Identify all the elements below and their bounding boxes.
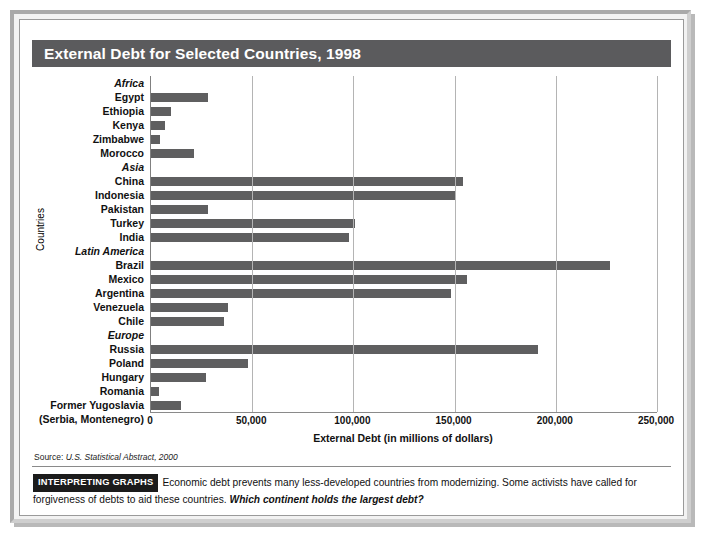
group-label-latin-america: Latin America — [22, 244, 150, 258]
x-tick-label: 100,000 — [334, 415, 370, 426]
source-prefix: Source: — [34, 452, 66, 462]
bar-row — [151, 314, 657, 328]
country-label: Egypt — [22, 90, 150, 104]
x-tick-label: 200,000 — [537, 415, 573, 426]
bar — [151, 219, 355, 228]
country-label: India — [22, 230, 150, 244]
bar — [151, 359, 248, 368]
status-badge: INTERPRETING GRAPHS — [33, 474, 158, 492]
chart-title-bar: External Debt for Selected Countries, 19… — [32, 40, 671, 67]
country-label: Pakistan — [22, 202, 150, 216]
bar-row — [151, 398, 657, 412]
group-label-africa: Africa — [22, 76, 150, 90]
bar — [151, 177, 463, 186]
page-title: External Debt for Selected Countries, 19… — [32, 45, 361, 63]
gridline — [455, 76, 456, 412]
bar-row — [151, 104, 657, 118]
bar-row — [151, 258, 657, 272]
bar-row — [151, 384, 657, 398]
bar — [151, 121, 165, 130]
bar-row — [151, 132, 657, 146]
country-label: Former Yugoslavia — [22, 398, 150, 412]
bar — [151, 191, 455, 200]
bar-series — [151, 76, 657, 412]
country-label: Zimbabwe — [22, 132, 150, 146]
caption-question: Which continent holds the largest debt? — [230, 494, 424, 505]
bar-row — [151, 370, 657, 384]
bar — [151, 275, 467, 284]
x-tick-label: 50,000 — [236, 415, 267, 426]
caption-block: INTERPRETING GRAPHSEconomic debt prevent… — [33, 474, 674, 507]
country-label: Romania — [22, 384, 150, 398]
bar-row — [151, 174, 657, 188]
country-label: Turkey — [22, 216, 150, 230]
caption-divider — [32, 466, 671, 467]
x-axis-title: External Debt (in millions of dollars) — [150, 432, 656, 444]
y-axis-labels: AfricaEgyptEthiopiaKenyaZimbabweMoroccoA… — [22, 76, 150, 426]
bar — [151, 387, 159, 396]
country-label: Argentina — [22, 286, 150, 300]
gridline — [657, 76, 658, 412]
bar — [151, 233, 349, 242]
country-label: Indonesia — [22, 188, 150, 202]
group-spacer-row — [151, 160, 657, 174]
bar-row — [151, 300, 657, 314]
country-label: Poland — [22, 356, 150, 370]
x-tick-label: 150,000 — [436, 415, 472, 426]
bar — [151, 261, 610, 270]
x-axis-ticks: 050,000100,000150,000200,000250,000 — [150, 415, 656, 429]
x-axis-line — [150, 412, 657, 413]
country-label: China — [22, 174, 150, 188]
gridline — [353, 76, 354, 412]
bar-row — [151, 272, 657, 286]
gridline — [556, 76, 557, 412]
bar — [151, 401, 181, 410]
country-label: Russia — [22, 342, 150, 356]
country-label: Morocco — [22, 146, 150, 160]
gridline — [252, 76, 253, 412]
bar-row — [151, 356, 657, 370]
bar-row — [151, 342, 657, 356]
country-label-continued: (Serbia, Montenegro) — [22, 412, 150, 426]
bar — [151, 303, 228, 312]
bar-row — [151, 202, 657, 216]
group-spacer-row — [151, 328, 657, 342]
x-tick-label: 250,000 — [638, 415, 674, 426]
country-label: Brazil — [22, 258, 150, 272]
bar — [151, 317, 224, 326]
country-label: Hungary — [22, 370, 150, 384]
group-label-europe: Europe — [22, 328, 150, 342]
bar-row — [151, 230, 657, 244]
country-label: Venezuela — [22, 300, 150, 314]
bar-row — [151, 286, 657, 300]
country-label: Ethiopia — [22, 104, 150, 118]
country-label: Chile — [22, 314, 150, 328]
bar — [151, 345, 538, 354]
country-label: Mexico — [22, 272, 150, 286]
bar-row — [151, 216, 657, 230]
source-text: U.S. Statistical Abstract, 2000 — [66, 452, 178, 462]
plot-region — [150, 76, 657, 412]
bar — [151, 93, 208, 102]
group-spacer-row — [151, 244, 657, 258]
bar — [151, 205, 208, 214]
x-tick-label: 0 — [147, 415, 153, 426]
source-note: Source: U.S. Statistical Abstract, 2000 — [34, 452, 178, 462]
bar — [151, 107, 171, 116]
bar — [151, 373, 206, 382]
bar-row — [151, 90, 657, 104]
bar — [151, 289, 451, 298]
country-label: Kenya — [22, 118, 150, 132]
bar-row — [151, 146, 657, 160]
bar-row — [151, 118, 657, 132]
bar-row — [151, 188, 657, 202]
group-label-asia: Asia — [22, 160, 150, 174]
group-spacer-row — [151, 76, 657, 90]
bar — [151, 149, 194, 158]
chart-area: Countries AfricaEgyptEthiopiaKenyaZimbab… — [22, 72, 682, 447]
bar — [151, 135, 160, 144]
